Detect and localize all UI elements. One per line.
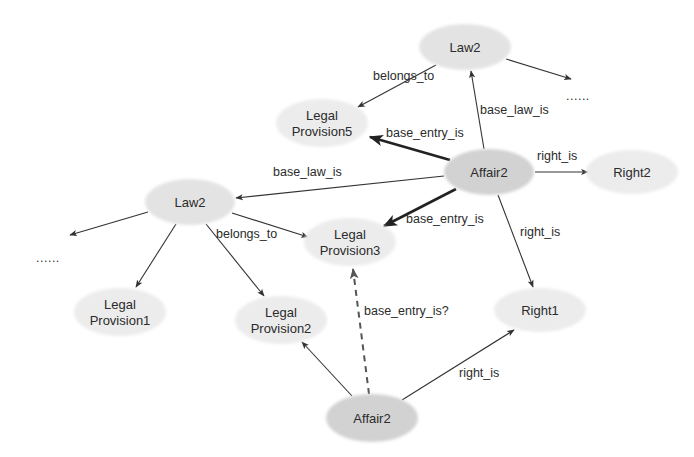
node-label: Legal <box>104 297 136 312</box>
node-ellipse-shape <box>276 99 368 147</box>
node-label: Provision5 <box>292 124 353 139</box>
edge-label: right_is <box>459 366 499 380</box>
node-right2[interactable]: Right2 <box>586 150 678 194</box>
edge-label: belongs_to <box>373 69 434 83</box>
edge-label: base_entry_is? <box>364 304 449 318</box>
ellipsis-more-marker: ...... <box>36 251 60 265</box>
node-right1[interactable]: Right1 <box>494 288 586 332</box>
node-label: Affair2 <box>470 165 507 180</box>
edge-label: base_law_is <box>273 165 342 179</box>
knowledge-graph-diagram: Law2LegalProvision5Affair2Right2Law2Lega… <box>0 0 694 457</box>
edge-label: base_entry_is <box>386 126 464 140</box>
node-label: Affair2 <box>353 411 390 426</box>
node-provision2[interactable]: LegalProvision2 <box>235 296 327 344</box>
node-provision3[interactable]: LegalProvision3 <box>304 218 396 266</box>
node-provision5[interactable]: LegalProvision5 <box>276 99 368 147</box>
node-affair2-bottom[interactable]: Affair2 <box>326 394 418 442</box>
nodes-layer: Law2LegalProvision5Affair2Right2Law2Lega… <box>74 24 678 442</box>
edge-affair2-bottom-to-provision2 <box>302 342 352 396</box>
edge-affair2-bottom-to-right1 <box>402 330 514 400</box>
edge-affair2-center-to-law2-left <box>236 176 444 198</box>
edge-label: right_is <box>520 225 560 239</box>
node-label: Legal <box>265 305 297 320</box>
node-ellipse-shape <box>304 218 396 266</box>
node-label: Law2 <box>449 40 480 55</box>
edge-label: base_entry_is <box>406 212 484 226</box>
node-label: Provision2 <box>251 321 312 336</box>
edge-affair2-center-to-provision5 <box>370 137 450 160</box>
node-provision1[interactable]: LegalProvision1 <box>74 288 166 336</box>
edge-law2-left-to-provision1 <box>136 224 176 287</box>
edge-label: right_is <box>537 149 577 163</box>
node-label: Law2 <box>174 195 205 210</box>
graph-svg: Law2LegalProvision5Affair2Right2Law2Lega… <box>0 0 694 457</box>
node-law2-top[interactable]: Law2 <box>419 24 511 70</box>
edge-label: belongs_to <box>216 227 277 241</box>
edge-affair2-center-to-right1 <box>498 195 533 287</box>
node-label: Legal <box>306 108 338 123</box>
node-label: Legal <box>334 227 366 242</box>
node-law2-left[interactable]: Law2 <box>145 179 235 225</box>
node-affair2-center[interactable]: Affair2 <box>444 149 534 195</box>
edge-law2-top-to-ellipsis-top <box>506 59 571 79</box>
node-label: Right1 <box>521 303 559 318</box>
edge-label: base_law_is <box>480 103 549 117</box>
node-label: Provision3 <box>320 243 381 258</box>
ellipsis-more-marker: ...... <box>566 89 590 103</box>
node-ellipse-shape <box>235 296 327 344</box>
edge-affair2-bottom-to-provision3 <box>353 269 369 394</box>
node-label: Provision1 <box>90 313 151 328</box>
node-ellipse-shape <box>74 288 166 336</box>
edge-law2-left-to-ellipsis-left <box>70 212 148 235</box>
node-label: Right2 <box>613 165 651 180</box>
